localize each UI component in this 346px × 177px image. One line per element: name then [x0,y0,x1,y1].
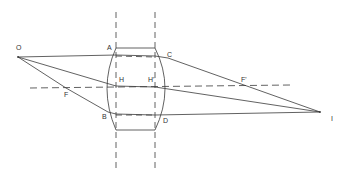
label-o: O [16,44,21,51]
label-d: D [163,117,168,124]
ray-middle [18,57,320,112]
label-f: F [64,91,68,98]
label-h-prime: H' [148,76,154,83]
diagram-canvas [0,0,346,177]
label-f-prime: F' [241,76,247,83]
thick-lens-diagram: O A C H H' F F' B D I [0,0,346,177]
ray-top [18,55,320,112]
label-a: A [107,44,112,51]
image-point [319,111,321,113]
label-i: I [331,115,333,122]
object-point [17,56,19,58]
label-h: H [119,76,124,83]
label-c: C [167,51,172,58]
label-b: B [102,113,107,120]
ray-bottom [18,57,320,115]
